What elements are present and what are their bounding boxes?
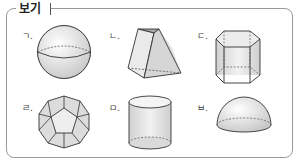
truncated-pyramid-figure xyxy=(126,27,186,83)
title-divider xyxy=(50,3,51,15)
dodecahedron-figure xyxy=(36,94,92,150)
item-label-1: ㄱ. xyxy=(22,31,33,41)
cylinder-figure xyxy=(128,95,172,151)
hemisphere-figure xyxy=(216,95,272,139)
sphere-figure xyxy=(36,24,92,80)
hexagonal-prism-figure xyxy=(214,29,264,85)
item-label-3: ㄷ. xyxy=(197,31,208,41)
box-title: 보기 xyxy=(19,2,40,16)
item-label-2: ㄴ. xyxy=(109,31,120,41)
item-label-6: ㅂ. xyxy=(197,103,208,113)
item-label-4: ㄹ. xyxy=(22,103,33,113)
item-label-5: ㅁ. xyxy=(109,103,120,113)
